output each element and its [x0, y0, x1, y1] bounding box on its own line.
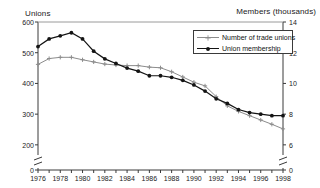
legend-item-unions: Number of trade unions [197, 32, 295, 43]
x-tick-1996: 1996 [253, 175, 269, 182]
x-tick-1998: 1998 [275, 175, 291, 182]
right-tick-8: 8 [289, 111, 293, 118]
right-tick-10: 10 [289, 80, 297, 87]
chart-legend: Number of trade unions Union membership [193, 30, 293, 54]
plus-dot-marker-icon [205, 35, 211, 41]
x-tick-1982: 1982 [97, 175, 113, 182]
left-tick-600: 600 [8, 19, 34, 26]
series-unions [36, 55, 285, 131]
legend-swatch-membership-icon [197, 44, 219, 53]
left-tick-300: 300 [8, 111, 34, 118]
x-tick-1990: 1990 [186, 175, 202, 182]
x-tick-1988: 1988 [164, 175, 180, 182]
chart-figure: Unions Members (thousands) 2003004005006… [0, 0, 320, 188]
plot-canvas [0, 0, 320, 188]
legend-label-membership: Union membership [219, 45, 281, 52]
x-tick-1984: 1984 [119, 175, 135, 182]
x-tick-1994: 1994 [231, 175, 247, 182]
left-tick-500: 500 [8, 49, 34, 56]
legend-swatch-unions-icon [197, 33, 219, 42]
left-tick-400: 400 [8, 80, 34, 87]
right-tick-zero: 0 [289, 167, 293, 174]
filled-circle-marker-icon [205, 46, 211, 52]
legend-label-unions: Number of trade unions [219, 34, 295, 41]
right-tick-6: 6 [289, 141, 293, 148]
x-tick-1980: 1980 [75, 175, 91, 182]
x-tick-1976: 1976 [30, 175, 46, 182]
right-tick-14: 14 [289, 19, 297, 26]
x-tick-1978: 1978 [52, 175, 68, 182]
x-tick-1986: 1986 [142, 175, 158, 182]
x-tick-1992: 1992 [208, 175, 224, 182]
left-tick-200: 200 [8, 141, 34, 148]
left-tick-zero: 0 [8, 167, 34, 174]
legend-item-membership: Union membership [197, 43, 281, 54]
